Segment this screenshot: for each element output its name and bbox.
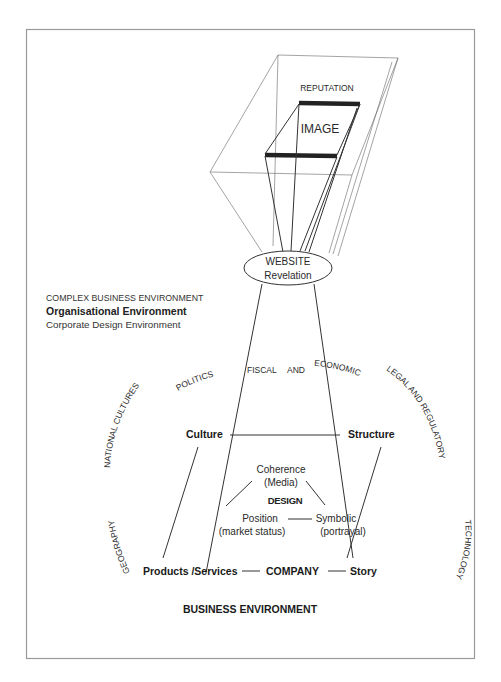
coherence-position-line xyxy=(226,481,252,506)
economic-label: ECONOMIC xyxy=(314,358,363,378)
company-node: COMPANY xyxy=(266,565,319,577)
geography-label: GEOGRAPHY xyxy=(106,519,132,575)
legal-and-regulatory-label: LEGAL AND REGULATORY xyxy=(385,363,448,459)
coherence-label: Coherence xyxy=(257,464,306,475)
culture-node: Culture xyxy=(186,428,223,440)
business-environment-footer: BUSINESS ENVIRONMENT xyxy=(183,603,318,615)
structure-node: Structure xyxy=(348,428,395,440)
image-plane-top-edge xyxy=(299,103,360,104)
revelation-label: Revelation xyxy=(264,270,311,281)
story-node: Story xyxy=(350,565,377,577)
design-label: DESIGN xyxy=(268,495,303,506)
symbolic-label: Symbolic xyxy=(316,513,357,524)
website-label: WEBSITE xyxy=(265,256,310,267)
legend-complex-business-environment: COMPLEX BUSINESS ENVIRONMENT xyxy=(46,293,204,303)
market-status-label: (market status) xyxy=(219,526,286,537)
legend-organisational-environment: Organisational Environment xyxy=(46,305,187,317)
national-cultures-label: NATIONAL CULTURES xyxy=(102,380,141,468)
portrayal-label: (portrayal) xyxy=(320,526,366,537)
structure-story-line xyxy=(347,447,381,558)
coherence-symbolic-line xyxy=(306,481,325,505)
corporate-identity-diagram: REPUTATION IMAGE WEBSITE Revelation COMP… xyxy=(0,0,501,682)
position-label: Position xyxy=(242,513,278,524)
reputation-label: REPUTATION xyxy=(300,83,354,93)
technology-label: TECHNOLOGY xyxy=(454,519,474,581)
fiscal-and-economic-label: FISCALAND xyxy=(247,365,305,375)
politics-label: POLITICS xyxy=(174,369,215,393)
image-label: IMAGE xyxy=(301,122,340,136)
culture-products-line xyxy=(163,447,198,558)
legend-corporate-design-environment: Corporate Design Environment xyxy=(46,319,181,330)
image-plane-bottom-edge xyxy=(265,155,337,156)
media-label: (Media) xyxy=(264,477,298,488)
products-services-node: Products /Services xyxy=(143,565,238,577)
diagram-canvas: REPUTATION IMAGE WEBSITE Revelation COMP… xyxy=(0,0,501,682)
